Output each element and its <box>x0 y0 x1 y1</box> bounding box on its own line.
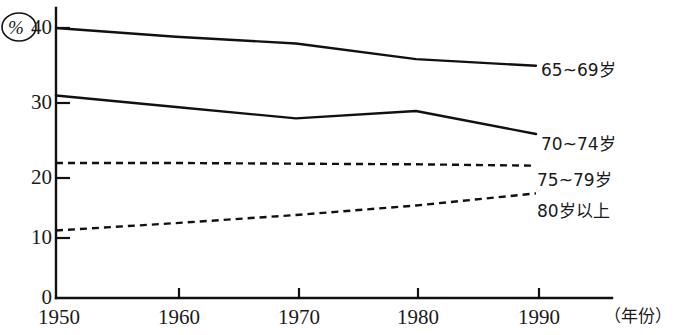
series-line-75-79 <box>56 163 536 166</box>
series-line-70-74 <box>56 96 536 135</box>
y-tick-label-40: 40 <box>18 17 52 38</box>
series-label-70-74: 70~74岁 <box>541 136 616 153</box>
chart-canvas <box>0 0 675 335</box>
series-label-65-69: 65~69岁 <box>541 62 616 79</box>
x-tick-label-1990: 1990 <box>504 307 574 328</box>
series-label-75-79: 75~79岁 <box>537 172 612 189</box>
y-tick-label-20: 20 <box>18 167 52 188</box>
series-line-80-plus <box>56 193 536 230</box>
series-label-80-plus: 80岁以上 <box>537 203 610 220</box>
x-tick-label-1950: 1950 <box>24 307 94 328</box>
y-tick-label-10: 10 <box>18 227 52 248</box>
y-tick-label-30: 30 <box>18 92 52 113</box>
x-axis-unit-label: （年份） <box>604 308 672 325</box>
line-chart: % 40 30 20 10 0 1950 1960 1970 1980 1990… <box>0 0 675 335</box>
x-tick-label-1960: 1960 <box>144 307 214 328</box>
x-tick-label-1970: 1970 <box>264 307 334 328</box>
x-tick-label-1980: 1980 <box>383 307 453 328</box>
series-line-65-69 <box>56 28 536 66</box>
